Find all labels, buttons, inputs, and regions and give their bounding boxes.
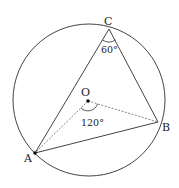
side-ac <box>35 29 109 153</box>
angle-label-o: 120° <box>81 117 104 128</box>
angle-label-c: 60° <box>101 44 118 55</box>
label-b: B <box>162 121 170 134</box>
angle-arc-o <box>81 104 98 111</box>
point-a-dot <box>33 151 37 155</box>
side-cb <box>109 29 158 122</box>
angle-arc-c <box>103 40 116 42</box>
label-c: C <box>104 15 112 28</box>
label-o: O <box>81 86 90 99</box>
circle-diagram: C B A O 60° 120° <box>0 0 179 188</box>
label-a: A <box>23 152 33 165</box>
point-o-dot <box>86 99 90 103</box>
